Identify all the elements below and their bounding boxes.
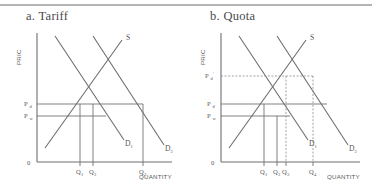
svg-text:1: 1 xyxy=(265,172,268,177)
origin-label-quota: 0 xyxy=(211,159,215,166)
svg-text:d: d xyxy=(213,104,216,109)
price-tick-pd-prime-quota: P d ′ xyxy=(205,71,214,81)
svg-text:P: P xyxy=(24,100,28,107)
quantity-tick-q1-tariff: Q 1 xyxy=(76,168,84,177)
curve-label-d2-quota: D 2 xyxy=(349,144,358,154)
demand-curve-d2-tariff xyxy=(93,36,164,145)
quantity-tick-q4-quota: Q 4 xyxy=(309,168,317,177)
supply-curve-quota xyxy=(229,40,306,148)
quantity-tick-q3-quota: Q 3 xyxy=(282,168,290,177)
svg-text:3: 3 xyxy=(287,172,290,177)
svg-text:P: P xyxy=(207,100,211,107)
svg-text:d: d xyxy=(30,104,33,109)
supply-curve-tariff xyxy=(45,40,122,148)
price-tick-pw-tariff: P w xyxy=(24,112,34,121)
svg-text:w: w xyxy=(213,116,217,121)
svg-text:d: d xyxy=(211,76,214,81)
quota-chart-area: PRIC 0 QUANTITY P d ′ P d P w xyxy=(186,0,372,195)
y-axis-label-tariff: PRIC xyxy=(15,49,22,65)
demand-curve-d2-quota xyxy=(277,36,348,145)
svg-text:1: 1 xyxy=(81,172,84,177)
svg-text:2: 2 xyxy=(94,172,97,177)
quantity-tick-q2-quota: Q 2 xyxy=(273,168,281,177)
svg-text:S: S xyxy=(310,33,314,42)
svg-text:2: 2 xyxy=(171,149,174,154)
svg-text:S: S xyxy=(126,33,130,42)
panel-tariff: a. Tariff xyxy=(0,0,186,195)
svg-text:1: 1 xyxy=(315,144,318,149)
svg-text:P: P xyxy=(205,72,209,79)
svg-text:4: 4 xyxy=(314,172,317,177)
origin-label-tariff: 0 xyxy=(27,159,31,166)
quantity-tick-q2-tariff: Q 2 xyxy=(89,168,97,177)
price-tick-pw-quota: P w xyxy=(207,112,217,121)
y-axis-label-quota: PRIC xyxy=(199,49,206,65)
svg-text:P: P xyxy=(207,112,211,119)
figure-container: a. Tariff xyxy=(0,0,372,195)
curve-label-s-quota: S xyxy=(310,33,314,42)
price-tick-pd-quota: P d xyxy=(207,100,216,109)
svg-text:2: 2 xyxy=(355,149,358,154)
svg-text:w: w xyxy=(30,116,34,121)
x-axis-label-quota: QUANTITY xyxy=(327,173,360,180)
price-tick-pd-tariff: P d xyxy=(24,100,33,109)
curve-label-d1-tariff: D 1 xyxy=(125,139,134,149)
svg-text:P: P xyxy=(24,112,28,119)
curve-label-d1-quota: D 1 xyxy=(309,139,318,149)
quantity-tick-q1-quota: Q 1 xyxy=(260,168,268,177)
tariff-chart-area: PRIC 0 QUANTITY P d P w Q 1 xyxy=(0,0,186,195)
svg-text:2: 2 xyxy=(278,172,281,177)
svg-text:1: 1 xyxy=(131,144,134,149)
curve-label-s-tariff: S xyxy=(126,33,130,42)
curve-label-d2-tariff: D 2 xyxy=(165,144,174,154)
panel-quota: b. Quota xyxy=(186,0,372,195)
svg-text:′: ′ xyxy=(213,71,214,76)
